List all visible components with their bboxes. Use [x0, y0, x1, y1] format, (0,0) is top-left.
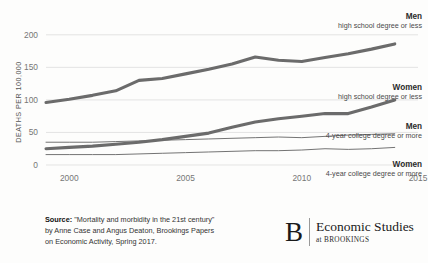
brookings-wordmark: Economic Studies at BROOKINGS	[316, 220, 414, 244]
source-note: Source: "Mortality and morbidity in the …	[45, 214, 245, 247]
x-tick-label: 2000	[49, 173, 89, 183]
annotation-men-high-school: Men high school degree or less	[338, 12, 422, 30]
brookings-program-name: Economic Studies	[316, 220, 414, 234]
source-title: "Mortality and morbidity in the 21st cen…	[72, 215, 214, 224]
annotation-men-college-sub: 4-year college degree or more	[326, 132, 422, 140]
y-tick-label: 200	[12, 30, 38, 40]
source-line-2: by Anne Case and Angus Deaton, Brookings…	[45, 225, 245, 236]
y-tick-label: 100	[12, 95, 38, 105]
brookings-b-mark: B	[285, 218, 310, 246]
annotation-men-high-school-sub: high school degree or less	[338, 22, 422, 30]
series-line-3	[46, 147, 395, 154]
annotation-women-college: Women 4-year college degree or more	[326, 160, 422, 178]
annotation-women-college-sub: 4-year college degree or more	[326, 170, 422, 178]
brookings-logo: B Economic Studies at BROOKINGS	[285, 218, 414, 246]
brookings-affiliation: at BROOKINGS	[316, 235, 414, 244]
source-line-3: on Economic Activity, Spring 2017.	[45, 236, 245, 247]
y-tick-label: 150	[12, 62, 38, 72]
annotation-women-high-school-sub: high school degree or less	[338, 93, 422, 101]
x-tick-label: 2005	[166, 173, 206, 183]
annotation-men-college: Men 4-year college degree or more	[326, 122, 422, 140]
y-tick-label: 0	[12, 160, 38, 170]
source-line-1: Source: "Mortality and morbidity in the …	[45, 214, 245, 225]
chart-figure: DEATHS PER 100,000 050100150200 20002005…	[0, 0, 428, 263]
annotation-women-high-school: Women high school degree or less	[338, 83, 422, 101]
source-prefix: Source:	[45, 215, 72, 224]
y-tick-label: 50	[12, 127, 38, 137]
x-tick-label: 2010	[282, 173, 322, 183]
